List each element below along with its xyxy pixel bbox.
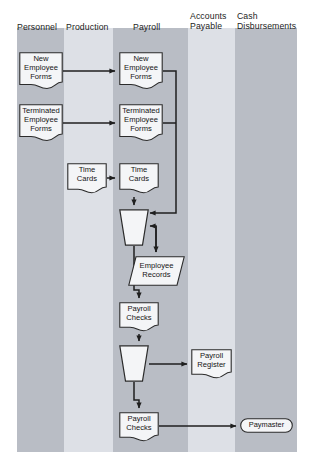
node-label: New Employee Forms — [119, 52, 163, 93]
node-terminated-employee-forms-personnel[interactable]: Terminated Employee Forms — [19, 104, 63, 142]
node-label: Time Cards — [67, 163, 107, 197]
node-label: Terminated Employee Forms — [19, 104, 63, 145]
node-label — [119, 209, 149, 246]
flowchart-canvas: Personnel Production Payroll Accounts Pa… — [0, 0, 316, 468]
node-time-cards-production[interactable]: Time Cards — [67, 163, 107, 194]
node-employee-records[interactable]: Employee Records — [128, 256, 185, 286]
node-time-cards-payroll[interactable]: Time Cards — [119, 163, 159, 194]
node-paymaster[interactable]: Paymaster — [240, 418, 293, 433]
node-payroll-checks-mid[interactable]: Payroll Checks — [119, 302, 159, 332]
node-manual-operation-payroll-prep[interactable] — [119, 209, 149, 246]
node-payroll-register[interactable]: Payroll Register — [191, 349, 232, 379]
node-label: Payroll Checks — [119, 302, 159, 335]
node-terminated-employee-forms-payroll[interactable]: Terminated Employee Forms — [119, 104, 163, 142]
node-label — [119, 345, 149, 382]
node-manual-operation-check-signing[interactable] — [119, 345, 149, 382]
node-new-employee-forms-payroll[interactable]: New Employee Forms — [119, 52, 163, 90]
node-label: Payroll Register — [191, 349, 232, 382]
node-new-employee-forms-personnel[interactable]: New Employee Forms — [19, 52, 63, 90]
node-label: New Employee Forms — [19, 52, 63, 93]
node-label: Employee Records — [128, 256, 185, 286]
node-label: Terminated Employee Forms — [119, 104, 163, 145]
node-label: Time Cards — [119, 163, 159, 197]
node-label: Payroll Checks — [119, 412, 159, 445]
node-label: Paymaster — [240, 418, 293, 433]
connector-c8 — [150, 226, 156, 252]
node-payroll-checks-final[interactable]: Payroll Checks — [119, 412, 159, 442]
connector-c12 — [134, 382, 139, 408]
